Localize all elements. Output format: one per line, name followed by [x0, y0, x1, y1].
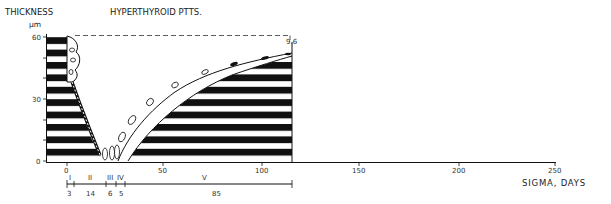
y-axis-unit: µm: [29, 20, 41, 29]
osteoblast-cell-icon: [145, 97, 155, 107]
lining-cell-icon: [285, 53, 291, 56]
phase-bar: [67, 180, 292, 188]
phase-label-iv: IV: [117, 174, 124, 182]
osteoblast-cell-icon: [171, 81, 180, 89]
osteoblast-cell-icon: [127, 114, 138, 126]
phase-label-iii: III: [107, 174, 113, 182]
osteoclast-cell: [67, 36, 80, 82]
phase-days-iii: 6: [108, 190, 113, 198]
formation-bone-region: [128, 56, 292, 161]
x-tick-label-50: 50: [158, 167, 167, 175]
phase-label-v: V: [202, 174, 207, 182]
phase-days-v: 85: [212, 190, 221, 198]
x-tick-label-100: 100: [255, 167, 268, 175]
x-tick-label-250: 250: [548, 167, 561, 175]
x-axis-title: SIGMA, DAYS: [522, 178, 586, 188]
reversal-cell-icon: [103, 148, 108, 160]
osteoblast-cell-icon: [201, 69, 209, 76]
phase-days-ii: 14: [86, 190, 95, 198]
y-axis-title: THICKNESS: [4, 7, 53, 17]
y-tick-label-0: 0: [36, 158, 40, 166]
reversal-cell-icon: [110, 146, 115, 160]
phase-label-i: I: [69, 174, 71, 182]
osteoblast-cell-icon: [117, 131, 127, 143]
phase-days-iv: 5: [119, 190, 123, 198]
y-tick-label-60: 60: [32, 34, 41, 42]
end-value-label: 9.6: [286, 38, 298, 46]
x-tick-label-200: 200: [452, 167, 465, 175]
x-tick-label-0: 0: [64, 167, 68, 175]
phase-days-i: 3: [67, 190, 71, 198]
x-tick-label-150: 150: [352, 167, 365, 175]
remodeling-diagram: THICKNESS HYPERTHYROID PTTS. µm 9.6: [0, 0, 611, 204]
phase-label-ii: II: [88, 174, 92, 182]
reversal-cell-icon: [115, 145, 120, 159]
y-tick-label-30: 30: [32, 96, 41, 104]
figure-title: HYPERTHYROID PTTS.: [110, 7, 202, 17]
